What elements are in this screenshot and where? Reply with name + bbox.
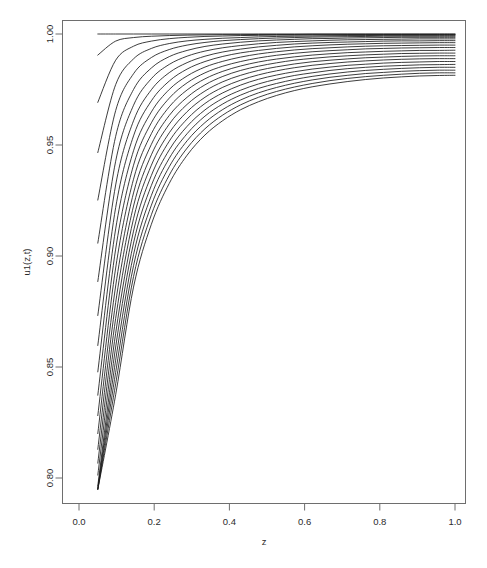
y-axis-title: u1(z,t): [21, 249, 32, 276]
y-axis-ticks: 0.800.850.900.951.00: [44, 25, 63, 488]
series-curve-t18: [98, 67, 455, 488]
series-curve-t11: [98, 48, 455, 396]
y-tick-label: 0.80: [44, 469, 55, 488]
x-axis-title: z: [262, 536, 267, 547]
x-tick-label: 0.2: [148, 516, 161, 527]
y-tick-label: 1.00: [44, 25, 55, 44]
plot-frame: [63, 21, 466, 504]
series-curve-t04: [98, 35, 455, 152]
series-curve-t20: [98, 73, 455, 490]
x-tick-label: 1.0: [448, 516, 461, 527]
series-curve-t12: [98, 50, 455, 415]
series-curve-t21: [98, 75, 455, 489]
series-curve-t17: [98, 64, 455, 485]
series-curves: [98, 34, 455, 490]
x-tick-label: 0.4: [223, 516, 236, 527]
series-curve-t10: [98, 45, 455, 372]
line-chart-plot: 0.00.20.40.60.81.0 0.800.850.900.951.00 …: [0, 0, 487, 568]
chart-figure: 0.00.20.40.60.81.0 0.800.850.900.951.00 …: [0, 0, 487, 568]
series-curve-t08: [98, 41, 455, 316]
x-tick-label: 0.0: [72, 516, 85, 527]
series-curve-t15: [98, 59, 455, 464]
series-curve-t14: [98, 56, 455, 450]
x-tick-label: 0.6: [298, 516, 311, 527]
x-tick-label: 0.8: [373, 516, 386, 527]
series-curve-t09: [98, 43, 455, 346]
y-tick-label: 0.90: [44, 247, 55, 266]
series-curve-t13: [98, 53, 455, 434]
x-axis-ticks: 0.00.20.40.60.81.0: [72, 504, 461, 527]
y-tick-label: 0.95: [44, 136, 55, 155]
y-tick-label: 0.85: [44, 358, 55, 377]
